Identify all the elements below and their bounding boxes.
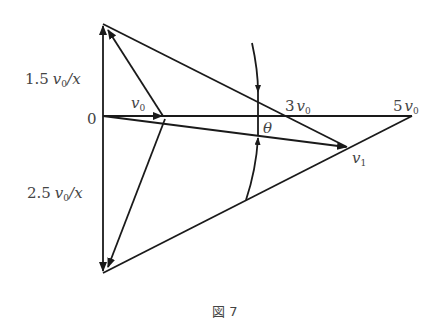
three-v0-label: 3v0 (285, 97, 311, 116)
lower-magnitude-label: 2.5v0/x (27, 184, 83, 203)
theta-label: θ (263, 119, 272, 137)
top-to-v1-line (103, 24, 347, 147)
five-v0-label: 5v0 (393, 97, 419, 116)
figure-caption: 図 7 (212, 304, 237, 319)
v0-to-bottom-arrow (108, 119, 165, 267)
theta-arc-upper (252, 43, 258, 92)
v1-label: v1 (352, 149, 366, 168)
upper-magnitude-label: 1.5v0/x (25, 70, 81, 89)
velocity-diagram: 1.5v0/x 2.5v0/x 0 v0 3v0 5v0 θ v1 図 7 (0, 0, 444, 331)
origin-label: 0 (87, 110, 97, 128)
v0-label: v0 (131, 94, 145, 113)
v1-arrow (103, 116, 346, 147)
theta-arc-lower (246, 138, 258, 200)
